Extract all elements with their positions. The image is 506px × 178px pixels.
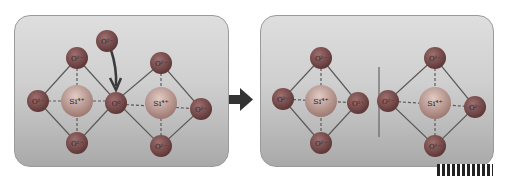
before-atoms bbox=[27, 30, 212, 157]
watermark-barcode-icon bbox=[437, 164, 493, 176]
svg-text:O²⁻: O²⁻ bbox=[429, 55, 442, 63]
svg-text:Si⁴⁺: Si⁴⁺ bbox=[427, 99, 442, 108]
svg-text:O²⁻: O²⁻ bbox=[155, 143, 168, 151]
svg-text:O²⁻: O²⁻ bbox=[352, 100, 365, 108]
svg-text:O²⁻: O²⁻ bbox=[315, 55, 328, 63]
svg-text:O²⁻: O²⁻ bbox=[32, 98, 45, 106]
svg-text:Si⁴⁺: Si⁴⁺ bbox=[69, 97, 84, 106]
svg-text:O²⁻: O²⁻ bbox=[469, 104, 482, 112]
svg-text:O²⁻: O²⁻ bbox=[71, 55, 84, 63]
svg-text:Si⁴⁺: Si⁴⁺ bbox=[153, 99, 168, 108]
svg-text:O²⁻: O²⁻ bbox=[315, 140, 328, 148]
svg-text:O²⁻: O²⁻ bbox=[155, 60, 168, 68]
after-atoms bbox=[272, 47, 486, 157]
transition-arrow-icon bbox=[229, 88, 253, 111]
svg-text:O²⁻: O²⁻ bbox=[101, 38, 114, 46]
svg-text:O²⁻: O²⁻ bbox=[429, 143, 442, 151]
silicate-diagram: O²⁻ O²⁻ O²⁻ O²⁻ Si⁴⁺ O⁰ O²⁻ Si⁴⁺ O²⁻ O²⁻ bbox=[0, 0, 506, 178]
svg-text:O⁰: O⁰ bbox=[112, 100, 121, 108]
svg-text:O²⁻: O²⁻ bbox=[195, 106, 208, 114]
svg-text:O²⁻: O²⁻ bbox=[71, 140, 84, 148]
svg-text:Si⁴⁺: Si⁴⁺ bbox=[313, 97, 328, 106]
svg-text:O²⁻: O²⁻ bbox=[277, 96, 290, 104]
svg-text:O²⁻: O²⁻ bbox=[382, 98, 395, 106]
